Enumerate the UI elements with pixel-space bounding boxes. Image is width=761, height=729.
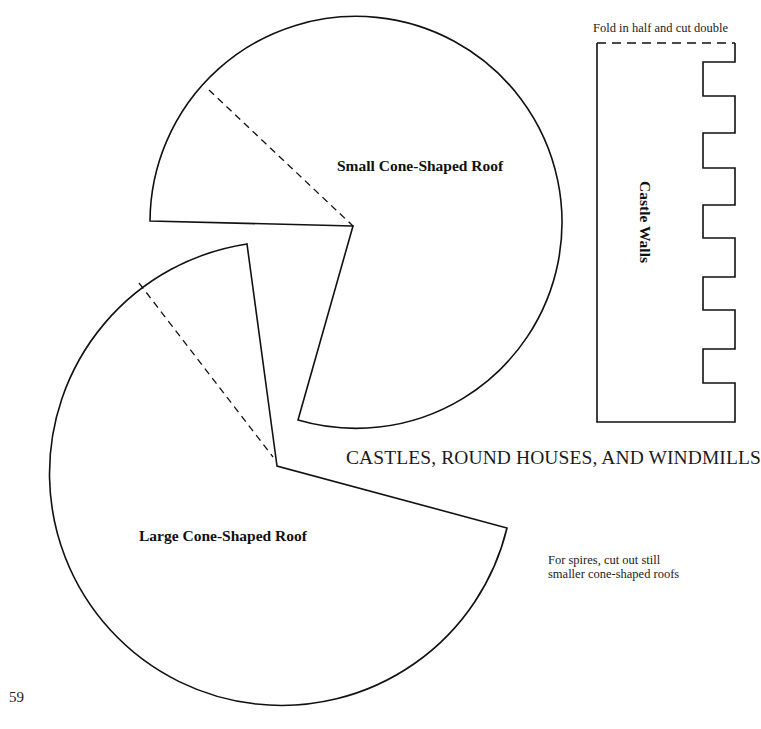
- spires-note-line-2: smaller cone-shaped roofs: [548, 567, 679, 581]
- spires-note-line-1: For spires, cut out still: [548, 553, 679, 567]
- castle-walls-outline: [597, 43, 735, 422]
- small-cone-fold-line: [209, 90, 353, 226]
- spires-note: For spires, cut out still smaller cone-s…: [548, 553, 679, 581]
- small-cone-template: [150, 16, 562, 428]
- page-number: 59: [9, 690, 24, 705]
- large-cone-label: Large Cone-Shaped Roof: [139, 528, 307, 544]
- large-cone-template: [50, 244, 507, 705]
- castle-walls-template: [597, 43, 735, 422]
- large-cone-outline: [50, 244, 507, 705]
- fold-instruction: Fold in half and cut double: [593, 22, 728, 35]
- small-cone-label: Small Cone-Shaped Roof: [337, 158, 503, 174]
- page-title: CASTLES, ROUND HOUSES, AND WINDMILLS: [346, 448, 761, 468]
- large-cone-fold-line: [139, 283, 273, 457]
- castle-walls-label: Castle Walls: [637, 181, 653, 263]
- small-cone-outline: [150, 16, 562, 428]
